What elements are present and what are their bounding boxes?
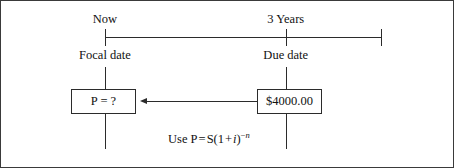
- present-value-box: P = ?: [71, 89, 136, 114]
- focal-date-connector: [105, 67, 106, 89]
- due-date-tick-icon: [286, 29, 287, 46]
- timeline-label-now: Now: [93, 12, 117, 26]
- timeline-axis: [105, 37, 381, 38]
- formula-equals: =: [198, 132, 207, 146]
- present-value-formula: Use P=S(1+i)−n: [168, 132, 250, 147]
- timeline-label-focal-date: Focal date: [79, 48, 131, 62]
- discount-arrow-head-icon: [140, 98, 147, 104]
- timeline-label-due-date: Due date: [263, 48, 308, 62]
- present-value-lower-connector: [105, 114, 106, 149]
- formula-exponent: −n: [241, 130, 250, 140]
- end-tick-icon: [381, 29, 382, 46]
- formula-base-open: S(1: [207, 132, 224, 146]
- formula-plus: +: [224, 132, 233, 146]
- future-value-box: $4000.00: [257, 89, 322, 114]
- due-date-connector: [286, 67, 287, 89]
- future-value-lower-connector: [286, 114, 287, 149]
- discount-arrow-line: [146, 101, 257, 102]
- timeline-diagram: Now 3 Years Focal date Due date P = ? $4…: [0, 0, 454, 168]
- formula-prefix: Use P: [168, 132, 198, 146]
- timeline-label-3-years: 3 Years: [267, 12, 304, 26]
- now-tick-icon: [105, 29, 106, 46]
- formula-exponent-symbol: n: [246, 130, 250, 140]
